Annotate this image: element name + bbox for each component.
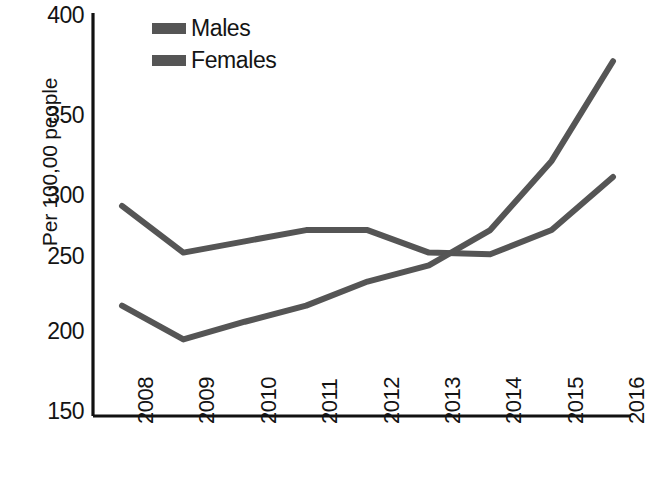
- x-tick-2012: 2012: [379, 377, 405, 424]
- legend-label-males: Males: [191, 15, 250, 42]
- y-tick-200: 200: [24, 318, 84, 345]
- x-tick-2009: 2009: [194, 377, 220, 424]
- legend-item-males: Males: [152, 12, 276, 44]
- legend-swatch-icon-females: [152, 55, 186, 66]
- y-tick-400: 400: [24, 2, 84, 29]
- legend-label-females: Females: [191, 47, 276, 74]
- legend-swatch-icon-males: [152, 23, 186, 34]
- y-tick-300: 300: [24, 182, 84, 209]
- series-line-males: [122, 177, 613, 254]
- y-tick-350: 350: [24, 102, 84, 129]
- x-tick-2014: 2014: [501, 377, 527, 424]
- x-tick-2015: 2015: [563, 377, 589, 424]
- series-line-females: [122, 61, 613, 339]
- x-tick-2008: 2008: [133, 377, 159, 424]
- y-axis-tick-labels: 400 350 300 250 200 150: [22, 0, 84, 501]
- legend-item-females: Females: [152, 44, 276, 76]
- y-tick-250: 250: [24, 243, 84, 270]
- x-tick-2013: 2013: [440, 377, 466, 424]
- x-tick-2011: 2011: [317, 379, 343, 424]
- x-tick-2016: 2016: [624, 377, 649, 424]
- x-tick-2010: 2010: [256, 377, 282, 424]
- legend: Males Females: [152, 12, 276, 76]
- y-tick-150: 150: [24, 398, 84, 425]
